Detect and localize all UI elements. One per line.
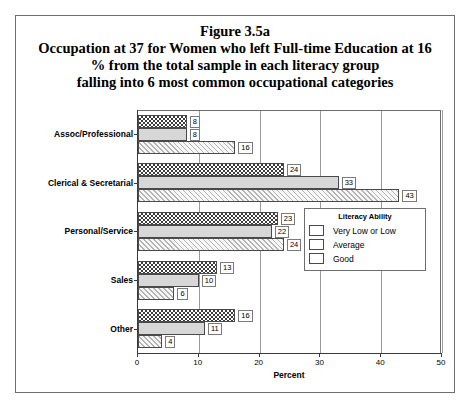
bar-row: 33: [138, 176, 441, 189]
bar[interactable]: [138, 287, 174, 300]
legend-swatch-good: [309, 253, 324, 264]
category-group: Clerical & Secretarial243343: [138, 159, 441, 208]
x-axis-tick: [319, 353, 320, 357]
x-axis-tick: [137, 353, 138, 357]
y-axis-category-label: Personal/Service: [64, 226, 133, 236]
x-axis-line: [137, 353, 442, 354]
bar-value-label: 8: [190, 116, 200, 128]
bar-row: 8: [138, 115, 441, 128]
x-axis-title: Percent: [137, 370, 441, 380]
bar-row: 43: [138, 189, 441, 202]
figure-title: Figure 3.5a Occupation at 37 for Women w…: [16, 23, 454, 91]
bar-value-label: 11: [208, 323, 222, 335]
figure-frame: Figure 3.5a Occupation at 37 for Women w…: [15, 15, 455, 393]
bar[interactable]: [138, 225, 272, 238]
bar[interactable]: [138, 128, 187, 141]
legend-label-average: Average: [333, 240, 365, 250]
bar-row: 10: [138, 274, 441, 287]
x-axis-tick: [441, 353, 442, 357]
legend-label-good: Good: [333, 254, 354, 264]
bar[interactable]: [138, 335, 162, 348]
category-group: Other16114: [138, 304, 441, 353]
x-axis-tick: [380, 353, 381, 357]
bar-row: 11: [138, 322, 441, 335]
bar-value-label: 8: [190, 129, 200, 141]
bar[interactable]: [138, 163, 284, 176]
legend-title: Literacy Ability: [309, 212, 421, 221]
bar[interactable]: [138, 141, 235, 154]
bar[interactable]: [138, 322, 205, 335]
y-axis-category-label: Other: [110, 324, 133, 334]
legend-swatch-average: [309, 239, 324, 250]
bar-value-label: 16: [238, 142, 252, 154]
legend-label-very-low-or-low: Very Low or Low: [333, 226, 396, 236]
y-axis-category-label: Sales: [111, 275, 133, 285]
bar-value-label: 4: [165, 336, 175, 348]
bar-row: 16: [138, 309, 441, 322]
bar-value-label: 10: [202, 275, 216, 287]
title-line-2: Occupation at 37 for Women who left Full…: [16, 40, 454, 57]
x-axis-tick-label: 50: [437, 358, 446, 367]
bar-row: 6: [138, 287, 441, 300]
title-line-4: falling into 6 most common occupational …: [16, 74, 454, 91]
y-axis-category-label: Clerical & Secretarial: [48, 178, 133, 188]
x-axis-tick-label: 40: [376, 358, 385, 367]
x-axis-tick: [198, 353, 199, 357]
legend-item-very-low-or-low: Very Low or Low: [309, 224, 421, 237]
bar-row: 8: [138, 128, 441, 141]
bar-value-label: 23: [281, 213, 295, 225]
x-axis-tick-label: 10: [193, 358, 202, 367]
bar-value-label: 24: [287, 164, 301, 176]
bar-value-label: 33: [342, 177, 356, 189]
x-axis-tick-label: 30: [315, 358, 324, 367]
bar-row: 24: [138, 163, 441, 176]
bar-row: 16: [138, 141, 441, 154]
chart-legend: Literacy Ability Very Low or Low Average…: [304, 208, 426, 271]
bar[interactable]: [138, 189, 399, 202]
bar[interactable]: [138, 238, 284, 251]
x-axis-tick-label: 20: [254, 358, 263, 367]
legend-swatch-very-low-or-low: [309, 225, 324, 236]
bar[interactable]: [138, 261, 217, 274]
title-line-3: % from the total sample in each literacy…: [16, 57, 454, 74]
bar-value-label: 6: [177, 288, 187, 300]
bar-value-label: 22: [275, 226, 289, 238]
legend-item-average: Average: [309, 238, 421, 251]
x-axis-tick-label: 0: [135, 358, 139, 367]
bar[interactable]: [138, 274, 199, 287]
gridline: [442, 110, 443, 353]
bar[interactable]: [138, 115, 187, 128]
bar[interactable]: [138, 309, 235, 322]
bar-value-label: 43: [402, 190, 416, 202]
category-group: Assoc/Professional8816: [138, 110, 441, 159]
bar-value-label: 16: [238, 310, 252, 322]
legend-item-good: Good: [309, 252, 421, 265]
y-axis-category-label: Assoc/Professional: [54, 129, 133, 139]
bar-value-label: 13: [220, 262, 234, 274]
bar[interactable]: [138, 212, 278, 225]
x-axis-tick: [259, 353, 260, 357]
bar[interactable]: [138, 176, 339, 189]
bar-row: 4: [138, 335, 441, 348]
bar-value-label: 24: [287, 239, 301, 251]
title-line-1: Figure 3.5a: [16, 23, 454, 40]
